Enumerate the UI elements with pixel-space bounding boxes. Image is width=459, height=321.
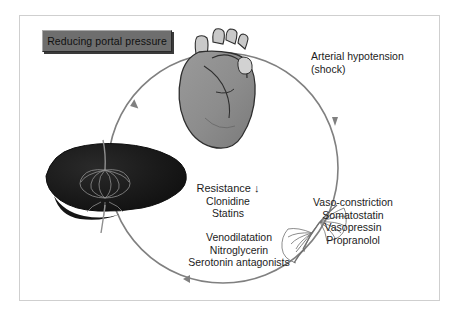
label-line: Statins xyxy=(197,207,260,220)
title-banner: Reducing portal pressure xyxy=(42,30,172,52)
label-line: Somatostatin xyxy=(313,209,393,222)
cycle-arrowhead-right xyxy=(332,117,338,126)
label-line: Resistance ↓ xyxy=(197,182,260,195)
figure-canvas: Reducing portal pressure Arterial hypote… xyxy=(0,0,459,321)
label-line: Propranolol xyxy=(313,234,393,247)
label-line: Serotonin antagonists xyxy=(188,256,290,269)
title-banner-text: Reducing portal pressure xyxy=(47,35,167,47)
label-line: Vasopressin xyxy=(313,221,393,234)
heart-illustration xyxy=(179,29,255,148)
label-line: Clonidine xyxy=(197,195,260,208)
label-vasoconstriction: Vaso-constriction Somatostatin Vasopress… xyxy=(313,196,393,246)
liver-illustration xyxy=(46,140,186,233)
label-line: Arterial hypotension xyxy=(311,50,404,63)
label-venodilatation: Venodilatation Nitroglycerin Serotonin a… xyxy=(188,231,290,269)
label-arterial-hypotension: Arterial hypotension (shock) xyxy=(311,50,404,75)
label-resistance: Resistance ↓ Clonidine Statins xyxy=(197,182,260,220)
label-line: (shock) xyxy=(311,63,404,76)
label-line: Venodilatation xyxy=(188,231,290,244)
label-line: Nitroglycerin xyxy=(188,244,290,257)
label-line: Vaso-constriction xyxy=(313,196,393,209)
